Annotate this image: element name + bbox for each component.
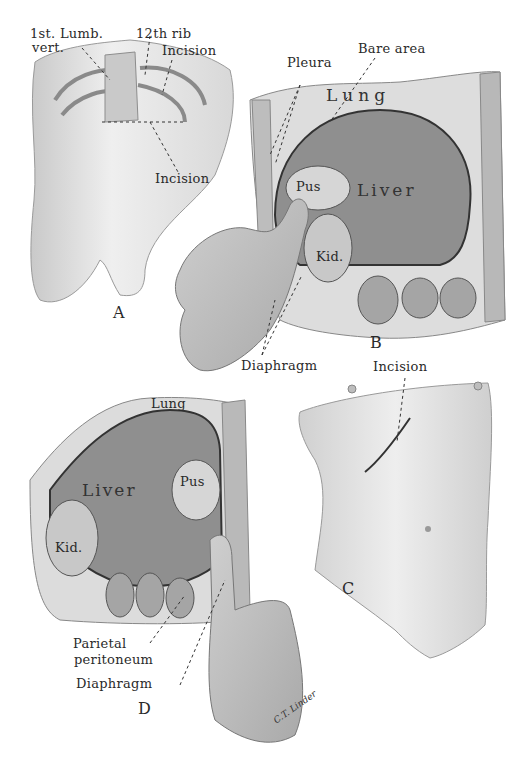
label-vert: vert.	[32, 41, 64, 55]
label-parietal: Parietal	[73, 637, 127, 651]
label-12th-rib: 12th rib	[136, 27, 191, 41]
label-diaphragm-d: Diaphragm	[76, 677, 152, 691]
label-pus-d: Pus	[180, 475, 205, 489]
panel-letter-d: D	[138, 702, 151, 716]
label-incision-a-top: Incision	[162, 44, 216, 58]
label-liver-b: Liver	[357, 183, 417, 197]
label-lung-d: Lung	[151, 397, 186, 411]
label-pleura: Pleura	[287, 56, 332, 70]
label-diaphragm-b: Diaphragm	[241, 359, 317, 373]
label-kid-b: Kid.	[316, 250, 344, 264]
panel-d-figure	[30, 397, 303, 742]
label-kid-d: Kid.	[55, 541, 83, 555]
label-1st-lumbar: 1st. Lumb.	[30, 27, 103, 41]
label-lung-b: Lung	[326, 88, 390, 102]
panel-c-figure	[299, 378, 492, 658]
label-bare-area: Bare area	[358, 42, 425, 56]
panel-letter-c: C	[342, 582, 355, 596]
label-pus-b: Pus	[296, 180, 321, 194]
label-peritoneum: peritoneum	[74, 653, 153, 667]
label-incision-c: Incision	[373, 360, 427, 374]
label-incision-a-bottom: Incision	[155, 172, 209, 186]
label-liver-d: Liver	[82, 483, 137, 497]
panel-letter-a: A	[113, 306, 125, 320]
panel-letter-b: B	[370, 336, 382, 350]
illustration-plate: 1st. Lumb. vert. 12th rib Incision Incis…	[0, 0, 521, 764]
